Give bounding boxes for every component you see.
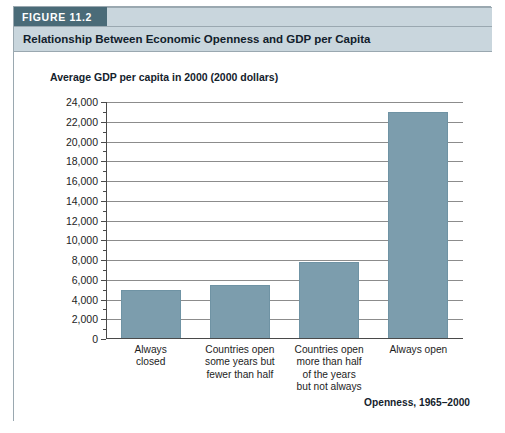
plot-area: 02,0004,0006,0008,00010,00012,00014,0001…: [106, 102, 463, 339]
y-tick-label: 16,000: [66, 175, 98, 187]
x-category-label-line: Always open: [374, 344, 463, 356]
x-category-label-line: Countries open: [285, 344, 374, 356]
x-category-label: Alwaysclosed: [106, 344, 195, 369]
y-tick-label: 10,000: [66, 234, 98, 246]
x-category-label-line: of the years: [285, 369, 374, 381]
x-category-label-line: Countries open: [195, 344, 284, 356]
plot-frame: [106, 102, 463, 339]
figure-badge: FIGURE 11.2: [14, 7, 107, 26]
x-category-label: Countries opensome years butfewer than h…: [195, 344, 284, 381]
y-tick-label: 2,000: [72, 313, 98, 325]
x-category-label-line: Always: [106, 344, 195, 356]
badge-strip: [107, 7, 492, 26]
y-tick-label: 24,000: [66, 96, 98, 108]
y-tick-label: 14,000: [66, 195, 98, 207]
y-tick-label: 22,000: [66, 116, 98, 128]
y-tick-major: [101, 339, 106, 340]
y-tick-label: 8,000: [72, 254, 98, 266]
y-axis-title: Average GDP per capita in 2000 (2000 dol…: [50, 71, 278, 83]
y-tick-label: 6,000: [72, 274, 98, 286]
x-axis-caption: Openness, 1965–2000: [364, 397, 470, 408]
x-category-label-line: more than half: [285, 356, 374, 368]
figure-title-band: Relationship Between Economic Openness a…: [14, 26, 492, 51]
figure-card: FIGURE 11.2 Relationship Between Economi…: [13, 6, 491, 421]
y-tick-label: 0: [92, 333, 98, 345]
figure-title: Relationship Between Economic Openness a…: [14, 33, 370, 45]
x-category-label: Always open: [374, 344, 463, 356]
x-category-label: Countries openmore than halfof the years…: [285, 344, 374, 394]
y-tick-label: 4,000: [72, 294, 98, 306]
x-category-label-line: some years but: [195, 356, 284, 368]
y-tick-label: 20,000: [66, 136, 98, 148]
y-tick-label: 18,000: [66, 155, 98, 167]
x-category-label-line: fewer than half: [195, 369, 284, 381]
x-category-label-line: but not always: [285, 381, 374, 393]
x-category-label-line: closed: [106, 356, 195, 368]
y-tick-label: 12,000: [66, 215, 98, 227]
chart-body: Average GDP per capita in 2000 (2000 dol…: [14, 51, 492, 422]
